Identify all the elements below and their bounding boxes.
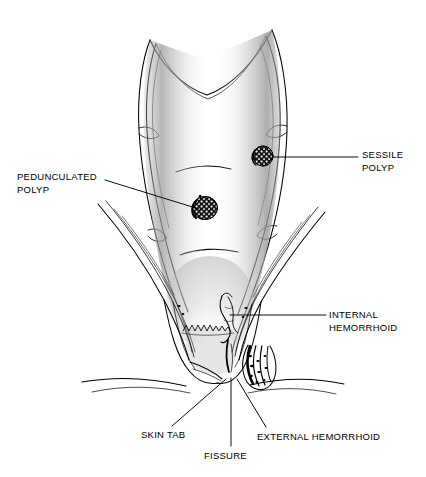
sessile-polyp xyxy=(252,146,273,166)
label-sessile-polyp-line1: SESSILE xyxy=(362,148,403,161)
anorectum-illustration xyxy=(0,0,426,477)
label-sessile-polyp-line2: POLYP xyxy=(362,161,403,174)
label-pedunculated-polyp-line2: POLYP xyxy=(17,183,97,196)
label-fissure: FISSURE xyxy=(204,449,247,462)
label-sessile-polyp: SESSILE POLYP xyxy=(362,148,403,174)
label-pedunculated-polyp: PEDUNCULATED POLYP xyxy=(17,170,97,196)
label-external-hemorrhoid: EXTERNAL HEMORRHOID xyxy=(257,430,380,443)
label-internal-hemorrhoid-line1: INTERNAL xyxy=(329,308,397,321)
label-pedunculated-polyp-line1: PEDUNCULATED xyxy=(17,170,97,183)
label-internal-hemorrhoid: INTERNAL HEMORRHOID xyxy=(329,308,397,334)
label-skin-tab: SKIN TAB xyxy=(141,428,185,441)
skin-tab-leader xyxy=(172,379,226,426)
mucosal-shading xyxy=(135,20,295,375)
label-internal-hemorrhoid-line2: HEMORRHOID xyxy=(329,321,397,334)
anatomical-figure: SESSILE POLYP PEDUNCULATED POLYP INTERNA… xyxy=(0,0,426,477)
